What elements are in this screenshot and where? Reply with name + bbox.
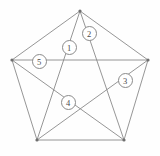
circled-label-2: 2 <box>82 26 97 41</box>
circled-label-5: 5 <box>32 54 47 69</box>
edge-bottomleft-left <box>12 60 37 140</box>
vertex-dot-bottom-left <box>35 138 38 141</box>
edge-right-bottomright <box>124 60 148 140</box>
pentagon-diagram: 1 2 3 4 5 <box>0 0 160 156</box>
diagonal-top-bottomleft <box>37 11 80 140</box>
vertex-dot-left <box>10 58 13 61</box>
vertex-dot-bottom-right <box>122 138 125 141</box>
circled-label-4: 4 <box>61 95 76 110</box>
vertex-dot-top <box>78 9 81 12</box>
circled-label-3: 3 <box>118 73 133 88</box>
vertex-dot-right <box>146 58 149 61</box>
diagonal-right-bottomleft <box>37 60 148 140</box>
circled-label-1: 1 <box>62 40 77 55</box>
pentagon-figure-svg <box>0 0 160 156</box>
